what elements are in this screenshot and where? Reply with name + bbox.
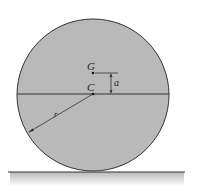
label-a: a (114, 77, 119, 88)
diagram-canvas: G C a r (0, 0, 198, 194)
label-r: r (54, 109, 58, 119)
ground-shadow (10, 172, 184, 186)
label-g: G (87, 60, 95, 72)
g-point (92, 72, 95, 75)
label-c: C (87, 81, 95, 93)
